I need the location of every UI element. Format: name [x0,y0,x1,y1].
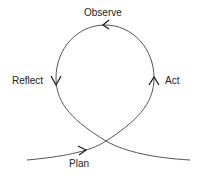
arrow-right-icon [78,146,86,155]
cycle-diagram: Observe Reflect Act Plan [0,0,197,178]
stage-label-observe: Observe [84,8,122,18]
stage-label-act: Act [165,76,179,86]
stage-label-reflect: Reflect [12,76,43,86]
arrow-left-icon [103,20,109,29]
cycle-curve [0,0,197,178]
stage-label-plan: Plan [69,159,89,169]
loop-line [27,25,190,160]
